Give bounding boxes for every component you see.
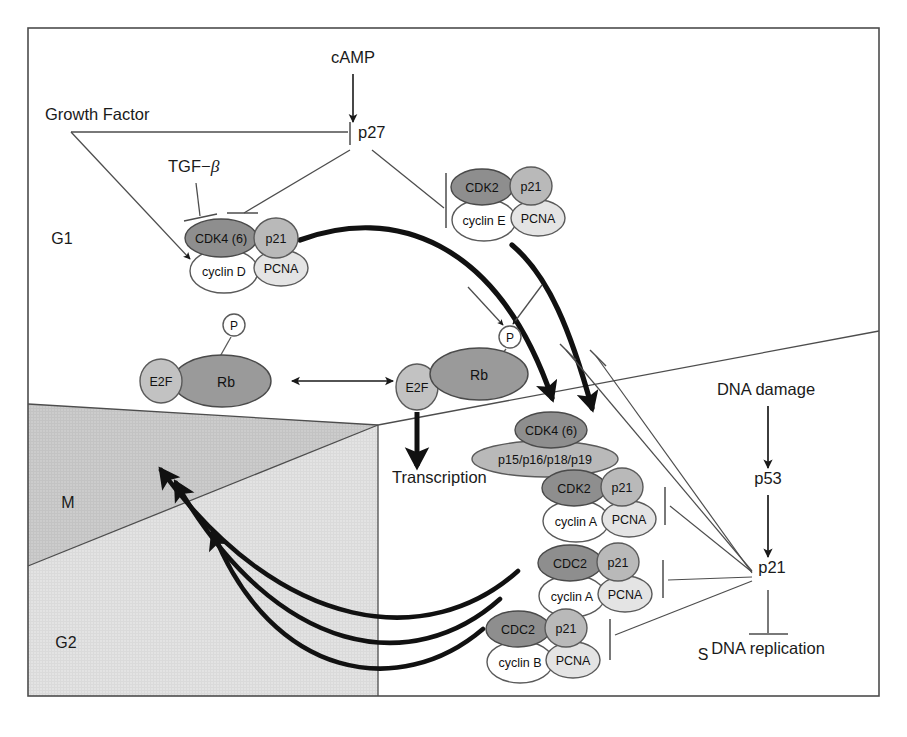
- node-label-p21-cdk4d: p21: [266, 232, 287, 246]
- node-label-cyclin-b: cyclin B: [498, 656, 541, 670]
- node-label-cdk4-6-s: CDK4 (6): [525, 424, 577, 438]
- node-label-ink4-family: p15/p16/p18/p19: [498, 453, 592, 467]
- label-transcription: Transcription: [392, 468, 487, 486]
- phase-label-s: S: [698, 646, 709, 663]
- label-growth-factor: Growth Factor: [45, 105, 150, 123]
- phase-label-g2: G2: [55, 634, 76, 651]
- label-tgf-beta: TGF−β: [168, 156, 220, 176]
- phospho-label-bound-rb: P: [506, 331, 514, 345]
- node-label-p21-cdk2e: p21: [521, 180, 542, 194]
- phase-label-m: M: [61, 494, 74, 511]
- node-label-cdk4-6-g1: CDK4 (6): [195, 232, 247, 246]
- phospho-label-free-rb: P: [230, 319, 238, 333]
- node-label-pcna-cdc2b: PCNA: [556, 654, 591, 668]
- node-label-cyclin-e: cyclin E: [462, 214, 505, 228]
- node-label-rb-phospho: Rb: [470, 367, 488, 383]
- node-label-pcna-cdk2e: PCNA: [521, 212, 556, 226]
- node-label-e2f-bound: E2F: [150, 375, 173, 389]
- node-label-p21-cdk2a: p21: [612, 481, 633, 495]
- node-label-pcna-cdc2a: PCNA: [608, 588, 643, 602]
- node-label-pcna-cdk2a: PCNA: [612, 513, 647, 527]
- label-tgf-beta-prefix: TGF−: [168, 157, 211, 175]
- node-label-p21-cdc2a: p21: [608, 556, 629, 570]
- node-label-cdk2-g1s: CDK2: [465, 181, 498, 195]
- figure-canvas: P P E2F Rb E2F Rb CDK4 (6) p21 cyclin D …: [0, 0, 907, 737]
- node-label-e2f-free: E2F: [406, 381, 429, 395]
- node-label-cyclin-a-cdk2: cyclin A: [555, 515, 598, 529]
- node-label-cdc2-b: CDC2: [501, 623, 535, 637]
- node-label-cdc2-a: CDC2: [553, 557, 587, 571]
- label-camp: cAMP: [331, 48, 375, 66]
- label-p53: p53: [754, 469, 782, 487]
- node-label-cyclin-d: cyclin D: [202, 265, 246, 279]
- label-tgf-beta-greek: β: [210, 156, 220, 176]
- label-dna-damage: DNA damage: [717, 380, 815, 398]
- phase-label-g1: G1: [51, 230, 72, 247]
- node-label-p21-cdc2b: p21: [556, 622, 577, 636]
- node-label-rb-hypo: Rb: [217, 374, 235, 390]
- node-label-cdk2-s: CDK2: [557, 482, 590, 496]
- label-p27: p27: [358, 123, 386, 141]
- label-p21-hub: p21: [758, 558, 786, 576]
- complex-cdk4-cyclind: CDK4 (6) p21 cyclin D PCNA: [185, 218, 308, 293]
- cell-cycle-diagram: P P E2F Rb E2F Rb CDK4 (6) p21 cyclin D …: [0, 0, 907, 737]
- label-dna-replication: DNA replication: [711, 639, 825, 657]
- node-label-pcna-cdk4d: PCNA: [264, 262, 299, 276]
- node-label-cyclin-a-cdc2: cyclin A: [551, 590, 594, 604]
